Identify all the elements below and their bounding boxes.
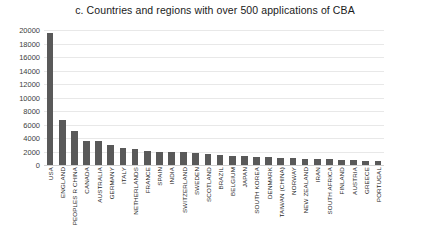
x-axis-slot: BELGIUM <box>226 167 238 247</box>
x-axis-tick-label: PEOPLES R CHINA <box>71 167 78 225</box>
bar[interactable] <box>229 156 236 165</box>
bar[interactable] <box>362 161 369 165</box>
x-axis-slot: PORTUGAL <box>372 167 384 247</box>
bar[interactable] <box>205 154 212 165</box>
x-axis-slot: SOUTH KOREA <box>250 167 262 247</box>
y-axis-tick-label: 0 <box>0 161 40 170</box>
x-axis-tick-label: BRAZIL <box>217 167 224 190</box>
y-axis-tick-label: 6000 <box>0 120 40 129</box>
bar-slot <box>372 30 384 165</box>
x-axis-slot: INDIA <box>165 167 177 247</box>
bar[interactable] <box>180 152 187 165</box>
x-axis-slot: FRANCE <box>141 167 153 247</box>
bar-slot <box>323 30 335 165</box>
plot-area <box>44 30 384 165</box>
bar-slot <box>202 30 214 165</box>
x-axis-tick-label: INDIA <box>168 167 175 184</box>
x-axis-tick-label: GERMANY <box>107 167 114 199</box>
bar-slot <box>335 30 347 165</box>
bar-slot <box>153 30 165 165</box>
bar[interactable] <box>302 159 309 165</box>
bar[interactable] <box>241 156 248 165</box>
bar-slot <box>165 30 177 165</box>
x-axis-tick-label: GREECE <box>362 167 369 194</box>
y-axis-tick-label: 8000 <box>0 107 40 116</box>
x-axis-tick-label: USA <box>47 167 54 180</box>
bar-slot <box>105 30 117 165</box>
bar[interactable] <box>168 152 175 165</box>
x-axis-tick-label: AUSTRIA <box>350 167 357 195</box>
y-axis-tick-label: 18000 <box>0 39 40 48</box>
y-axis-tick-label: 20000 <box>0 26 40 35</box>
bar[interactable] <box>71 131 78 165</box>
x-axis-tick-label: ENGLAND <box>59 167 66 198</box>
x-axis-slot: SWITZERLAND <box>178 167 190 247</box>
chart-title: c. Countries and regions with over 500 a… <box>0 4 430 16</box>
bar-slot <box>129 30 141 165</box>
bar[interactable] <box>47 33 54 165</box>
bar[interactable] <box>83 141 90 165</box>
bar-series <box>44 30 384 165</box>
x-axis-slot: PEOPLES R CHINA <box>68 167 80 247</box>
bar-slot <box>214 30 226 165</box>
x-axis-tick-label: BELGIUM <box>229 167 236 196</box>
x-axis-tick-label: NORWAY <box>289 167 296 195</box>
x-axis-slot: USA <box>44 167 56 247</box>
bar[interactable] <box>156 152 163 166</box>
y-axis-tick-label: 4000 <box>0 134 40 143</box>
bar[interactable] <box>95 141 102 165</box>
x-axis-slot: NORWAY <box>287 167 299 247</box>
bar-slot <box>141 30 153 165</box>
bar[interactable] <box>265 157 272 165</box>
bar[interactable] <box>350 160 357 165</box>
x-axis-tick-label: NETHERLANDS <box>132 167 139 215</box>
bar-slot <box>56 30 68 165</box>
bar[interactable] <box>277 158 284 165</box>
bar[interactable] <box>59 120 66 165</box>
bar[interactable] <box>192 153 199 165</box>
x-axis-slot: CANADA <box>80 167 92 247</box>
bar[interactable] <box>290 158 297 165</box>
bar[interactable] <box>338 160 345 165</box>
bar-chart: c. Countries and regions with over 500 a… <box>0 0 430 248</box>
bar[interactable] <box>375 161 382 165</box>
x-axis-tick-label: FRANCE <box>144 167 151 193</box>
y-axis-tick-label: 10000 <box>0 93 40 102</box>
x-axis-slot: AUSTRIA <box>348 167 360 247</box>
x-axis-tick-label: SOUTH AFRICA <box>326 167 333 215</box>
x-axis-slot: SCOTLAND <box>202 167 214 247</box>
bar[interactable] <box>326 159 333 165</box>
x-axis-slot: ENGLAND <box>56 167 68 247</box>
bar-slot <box>117 30 129 165</box>
x-axis-slot: IRAN <box>311 167 323 247</box>
x-axis-slot: NETHERLANDS <box>129 167 141 247</box>
bar-slot <box>238 30 250 165</box>
bar-slot <box>311 30 323 165</box>
x-axis: USAENGLANDPEOPLES R CHINACANADAAUSTRALIA… <box>44 167 384 247</box>
x-axis-tick-label: JAPAN <box>241 167 248 187</box>
y-axis-tick-label: 12000 <box>0 80 40 89</box>
bar-slot <box>80 30 92 165</box>
x-axis-slot: AUSTRALIA <box>93 167 105 247</box>
x-axis-slot: FINLAND <box>335 167 347 247</box>
x-axis-slot: SPAIN <box>153 167 165 247</box>
bar[interactable] <box>253 157 260 165</box>
bar[interactable] <box>144 151 151 165</box>
bar[interactable] <box>120 148 127 165</box>
x-axis-slot: JAPAN <box>238 167 250 247</box>
bar-slot <box>226 30 238 165</box>
x-axis-slot: SOUTH AFRICA <box>323 167 335 247</box>
bar-slot <box>299 30 311 165</box>
x-axis-tick-label: SWEDEN <box>192 167 199 195</box>
x-axis-tick-label: ITALY <box>119 167 126 184</box>
y-axis-tick-label: 14000 <box>0 66 40 75</box>
bar[interactable] <box>107 145 114 165</box>
x-axis-tick-label: SOUTH KOREA <box>253 167 260 214</box>
x-axis-tick-label: SPAIN <box>156 167 163 186</box>
bar[interactable] <box>132 149 139 165</box>
x-axis-slot: GREECE <box>360 167 372 247</box>
bar[interactable] <box>314 159 321 165</box>
x-axis-slot: BRAZIL <box>214 167 226 247</box>
bar-slot <box>250 30 262 165</box>
bar[interactable] <box>217 155 224 165</box>
